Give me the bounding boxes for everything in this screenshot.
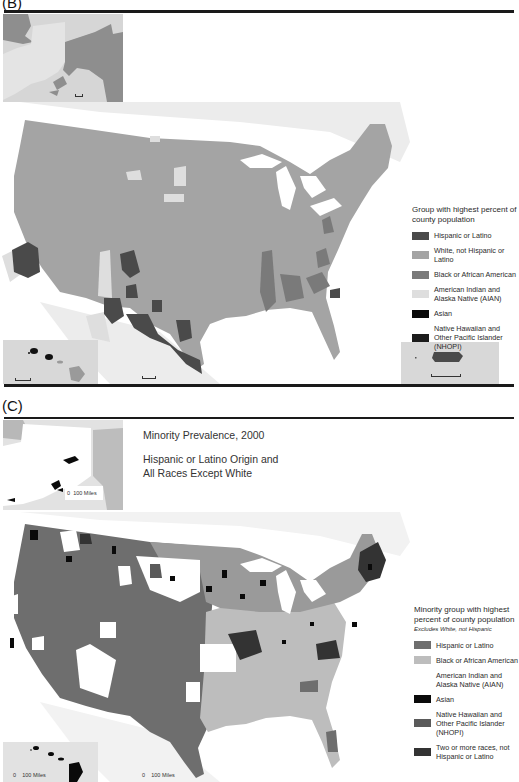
legend-c-item-two-or-more: Two or more races, not Hispanic or Latin… <box>414 743 518 761</box>
legend-c: Minority group with highest percent of c… <box>414 605 518 767</box>
panel-b-bottom-rule <box>4 384 514 387</box>
conus-scale-label-c: 0 100 Miles <box>142 772 175 778</box>
alaska-map-c <box>3 420 123 510</box>
legend-b-item-asian: Asian <box>412 309 517 318</box>
panel-c-label: (C) <box>2 397 23 414</box>
legend-swatch <box>414 641 431 649</box>
legend-b: Group with highest percent of county pop… <box>412 205 517 357</box>
legend-c-item-black: Black or African American <box>414 656 518 665</box>
hawaii-inset-c: 0 100 Miles <box>3 742 98 782</box>
legend-swatch <box>414 719 431 727</box>
legend-swatch <box>412 232 429 240</box>
legend-swatch <box>414 656 431 664</box>
map-title: Minority Prevalence, 2000 <box>143 428 288 442</box>
hawaii-inset-b <box>3 340 98 384</box>
legend-c-item-nhopi: Native Hawaiian and Other Pacific Island… <box>414 710 518 737</box>
panel-c-title-block: Minority Prevalence, 2000 Hispanic or La… <box>143 428 288 481</box>
legend-swatch <box>412 251 429 259</box>
legend-c-subtitle: Excludes White, not Hispanic <box>414 626 518 634</box>
legend-swatch <box>412 310 429 318</box>
legend-c-title: Minority group with highest percent of c… <box>414 605 518 625</box>
legend-swatch <box>412 334 429 342</box>
alaska-scalebar-b <box>75 94 83 97</box>
legend-b-item-hispanic: Hispanic or Latino <box>412 231 517 240</box>
legend-b-title: Group with highest percent of county pop… <box>412 205 517 225</box>
alaska-inset-b <box>3 14 123 102</box>
alaska-inset-c: 0 100 Miles <box>3 420 123 510</box>
legend-swatch <box>412 290 429 298</box>
legend-b-item-white: White, not Hispanic or Latino <box>412 246 517 264</box>
puerto-rico-scalebar-b <box>431 374 461 377</box>
panel-b-top-rule <box>4 10 514 13</box>
legend-swatch <box>414 676 431 684</box>
map-subtitle: Hispanic or Latino Origin and All Races … <box>143 452 288 480</box>
panel-c-top-rule <box>4 417 514 419</box>
legend-swatch <box>414 748 431 756</box>
legend-b-item-aian: American Indian and Alaska Native (AIAN) <box>412 285 517 303</box>
conus-scalebar-b <box>142 376 156 379</box>
legend-b-item-nhopi: Native Hawaiian and Other Pacific Island… <box>412 324 517 351</box>
hawaii-scalebar-b <box>15 378 31 381</box>
alaska-map-b <box>3 14 123 102</box>
alaska-scale-label-c: 0 100 Miles <box>67 490 97 496</box>
hawaii-scale-label-c: 0 100 Miles <box>13 772 46 778</box>
legend-c-item-asian: Asian <box>414 695 518 704</box>
legend-b-item-black: Black or African American <box>412 270 517 279</box>
legend-c-item-aian: American Indian and Alaska Native (AIAN) <box>414 671 518 689</box>
legend-c-item-hispanic: Hispanic or Latino <box>414 641 518 650</box>
legend-swatch <box>412 271 429 279</box>
legend-swatch <box>414 695 431 703</box>
